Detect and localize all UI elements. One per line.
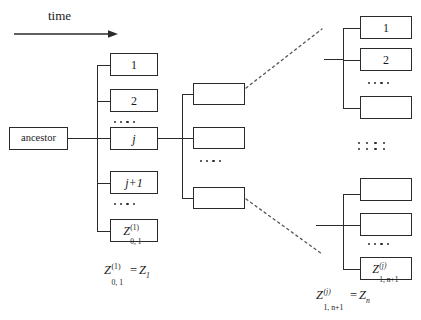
node-gen1-j-plus-1: j+1 xyxy=(110,171,158,194)
ellipsis-gen1-lower xyxy=(114,203,135,205)
caption-bottom-lhs-var: Z xyxy=(316,288,323,302)
node-gen1-last-var: Z xyxy=(123,224,130,238)
edge-gen1-node-2 xyxy=(97,101,111,102)
edge-expansion-bottom-entry xyxy=(316,225,344,226)
edge-gen1-node-j xyxy=(97,138,111,139)
figure-canvas: time ancestor 1 2 j j+1 Z ( xyxy=(0,0,421,320)
edge-j-to-gen2 xyxy=(158,138,183,139)
node-gen2-2 xyxy=(193,127,245,149)
caption-bottom-lhs-sup: (j) xyxy=(323,287,330,296)
node-gen1-1-label: 1 xyxy=(131,59,137,71)
edge-expansion-top-entry xyxy=(324,59,344,60)
node-expansion-bottom-last-var: Z xyxy=(372,262,379,276)
ellipsis-gen1-upper xyxy=(114,121,135,123)
node-expansion-bottom-last-sub: 1, n+1 xyxy=(379,276,398,283)
node-gen2-last xyxy=(193,187,245,209)
node-gen1-last-sup: (1) xyxy=(130,224,139,231)
caption-bottom-equals: = xyxy=(348,288,359,302)
node-expansion-top-1: 1 xyxy=(360,16,412,39)
dashed-connector-bottom xyxy=(244,196,326,258)
caption-bottom-lhs-sub: 1, n+1 xyxy=(323,303,343,312)
caption-bottom-rhs-var: Z xyxy=(359,288,366,302)
node-gen1-j-label: j xyxy=(132,133,135,145)
node-expansion-top-last xyxy=(360,96,412,119)
gen1-spine xyxy=(97,65,98,231)
caption-bottom-rhs-sub: n xyxy=(366,296,370,305)
caption-gen1-lhs-sup: (1) xyxy=(111,262,120,271)
dashed-connector-top xyxy=(244,26,326,92)
ellipsis-gen2 xyxy=(200,160,221,162)
caption-gen1-rhs-var: Z xyxy=(139,263,146,277)
edge-expansion-top-node-last xyxy=(343,108,361,109)
gen2-spine xyxy=(182,94,183,198)
node-expansion-top-2-label: 2 xyxy=(383,54,389,66)
node-expansion-bottom-last-sup: (j) xyxy=(379,262,386,269)
node-ancestor-label: ancestor xyxy=(21,133,56,144)
edge-gen1-node-last xyxy=(97,231,111,232)
time-axis-label: time xyxy=(48,8,71,24)
node-gen1-2-label: 2 xyxy=(131,95,137,107)
node-gen1-last-sub: 0, 1 xyxy=(130,238,141,245)
ellipsis-between-clusters xyxy=(358,142,385,150)
node-ancestor: ancestor xyxy=(9,127,68,150)
node-gen1-1: 1 xyxy=(110,53,158,76)
edge-expansion-bottom-node-1 xyxy=(343,194,361,195)
node-gen1-j: j xyxy=(110,127,158,150)
node-expansion-bottom-2 xyxy=(360,213,412,236)
edge-gen1-node-j-plus-1 xyxy=(97,183,111,184)
edge-ancestor-to-gen1 xyxy=(68,138,98,139)
node-gen2-1 xyxy=(193,83,245,105)
edge-gen1-node-1 xyxy=(97,65,111,66)
edge-expansion-top-node-1 xyxy=(343,28,361,29)
ellipsis-expansion-bottom xyxy=(368,243,389,245)
ellipsis-row xyxy=(358,148,385,150)
edge-expansion-bottom-node-last xyxy=(343,269,361,270)
time-axis-arrow xyxy=(14,28,120,40)
edge-expansion-bottom-node-2 xyxy=(343,225,361,226)
node-gen1-last: Z (1) 0, 1 xyxy=(110,219,158,242)
caption-gen1-equals: = xyxy=(128,263,139,277)
expansion-bottom-spine xyxy=(343,194,344,269)
caption-generation1: Z (1) 0, 1 =Z1 xyxy=(104,263,150,280)
node-gen1-last-label: Z (1) 0, 1 xyxy=(123,225,145,237)
caption-gen1-rhs-sub: 1 xyxy=(146,271,150,280)
node-expansion-top-1-label: 1 xyxy=(383,22,389,34)
edge-expansion-top-node-2 xyxy=(343,60,361,61)
expansion-top-spine xyxy=(343,28,344,108)
node-expansion-bottom-last: Z (j) 1, n+1 xyxy=(360,257,412,280)
ellipsis-expansion-top xyxy=(368,82,389,84)
node-expansion-top-2: 2 xyxy=(360,48,412,71)
node-gen1-2: 2 xyxy=(110,89,158,112)
caption-gen1-lhs-var: Z xyxy=(104,263,111,277)
caption-gen1-lhs-sub: 0, 1 xyxy=(111,278,123,287)
node-gen1-j-plus-1-label: j+1 xyxy=(125,177,142,189)
caption-expansion-bottom: Z (j) 1, n+1 =Zn xyxy=(316,288,370,305)
node-expansion-bottom-last-label: Z (j) 1, n+1 xyxy=(372,263,400,275)
node-expansion-bottom-1 xyxy=(360,178,412,201)
ellipsis-row xyxy=(358,142,385,144)
